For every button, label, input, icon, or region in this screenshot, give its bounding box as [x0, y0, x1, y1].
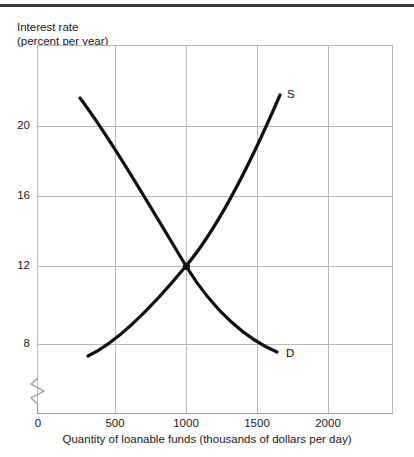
demand-curve-label: D — [286, 347, 294, 359]
x-tick-label-0: 0 — [18, 417, 58, 429]
supply-demand-figure: Interest rate (percent per year) — [0, 0, 414, 457]
x-tick-label-1000: 1000 — [166, 417, 206, 429]
x-tick-label-1500: 1500 — [237, 417, 277, 429]
y-tick-label-8: 8 — [4, 337, 30, 349]
y-tick-label-12: 12 — [4, 259, 30, 271]
x-axis-title: Quantity of loanable funds (thousands of… — [0, 432, 414, 446]
supply-curve-label: S — [287, 88, 295, 100]
x-tick-label-2000: 2000 — [308, 417, 348, 429]
equilibrium-point-marker — [183, 263, 190, 270]
plot-canvas — [0, 0, 414, 457]
y-tick-label-16: 16 — [4, 189, 30, 201]
x-tick-label-500: 500 — [95, 417, 135, 429]
y-tick-label-20: 20 — [4, 119, 30, 131]
plot-frame — [38, 46, 393, 414]
